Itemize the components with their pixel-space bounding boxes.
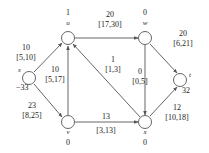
edge-s-v-cost: 23 bbox=[28, 102, 36, 110]
edge-x-t-cost: 12 bbox=[173, 104, 181, 112]
edge-v-x-range: [3,13] bbox=[96, 127, 115, 135]
node-v-name: v bbox=[66, 129, 69, 136]
edge-w-x-cost: 0 bbox=[138, 68, 142, 76]
node-v[interactable] bbox=[62, 116, 75, 129]
node-x-value: 0 bbox=[143, 139, 147, 147]
edge-w-t-cost: 20 bbox=[179, 30, 187, 38]
node-x[interactable] bbox=[139, 116, 152, 129]
node-s-name: s bbox=[18, 67, 21, 74]
node-w[interactable] bbox=[139, 32, 152, 45]
edge-u-w-range: [17,30] bbox=[98, 21, 121, 29]
node-u-value: 1 bbox=[66, 9, 70, 17]
edge-s-u-cost: 10 bbox=[22, 44, 30, 52]
network-flow-diagram: 1 u 0 w s −33 t 32 v 0 x 0 10 [5,10] 23 … bbox=[0, 0, 209, 153]
edge-v-u-cost: 10 bbox=[51, 66, 59, 74]
edge-x-u-cost: 1 bbox=[111, 56, 115, 64]
node-t[interactable] bbox=[174, 74, 187, 87]
node-v-value: 0 bbox=[66, 139, 70, 147]
node-u[interactable] bbox=[62, 32, 75, 45]
edge-s-v-range: [8,25] bbox=[22, 112, 41, 120]
node-t-value: 32 bbox=[182, 87, 190, 95]
node-s-value: −33 bbox=[16, 84, 29, 92]
edge-u-w-cost: 20 bbox=[106, 11, 114, 19]
edge-w-x-range: [0,5] bbox=[132, 78, 147, 86]
node-w-name: w bbox=[143, 20, 148, 27]
node-t-name: t bbox=[189, 72, 191, 79]
node-x-name: x bbox=[143, 129, 146, 136]
edge-s-u-range: [5,10] bbox=[16, 54, 35, 62]
edge-w-t-range: [6,21] bbox=[173, 40, 192, 48]
edge-v-u-range: [5,17] bbox=[45, 76, 64, 84]
edge-x-t-range: [10,18] bbox=[165, 114, 188, 122]
node-w-value: 0 bbox=[143, 9, 147, 17]
node-u-name: u bbox=[66, 20, 70, 27]
edge-x-u-range: [1,3] bbox=[105, 66, 120, 74]
edge-v-x-cost: 13 bbox=[102, 113, 110, 121]
edge-x-u bbox=[73, 44, 140, 117]
